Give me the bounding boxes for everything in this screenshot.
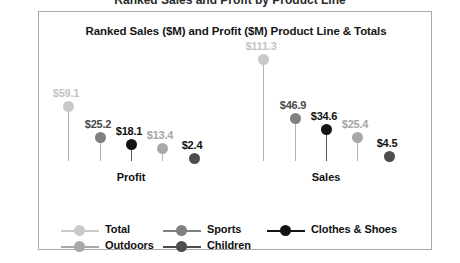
data-point-value-label: $2.4	[182, 139, 203, 151]
chart-legend: TotalSportsClothes & ShoesOutdoorsChildr…	[39, 208, 433, 252]
data-point-value-label: $4.5	[377, 137, 398, 149]
legend-marker-dot	[74, 225, 85, 236]
data-point-value-label: $25.4	[342, 118, 369, 130]
data-point[interactable]	[290, 113, 301, 124]
data-point-value-label: $34.6	[311, 110, 338, 122]
clipped-header-text: Ranked Sales and Profit by Product Line	[0, 0, 460, 7]
data-point-value-label: $46.9	[280, 99, 307, 111]
data-point-value-label: $25.2	[85, 118, 112, 130]
data-point[interactable]	[384, 151, 395, 162]
data-point-value-label: $111.3	[245, 40, 276, 52]
data-point[interactable]	[321, 124, 332, 135]
legend-marker-dot	[74, 241, 85, 252]
data-point-value-label: $18.1	[116, 125, 143, 137]
chart-frame: Ranked Sales ($M) and Profit ($M) Produc…	[38, 11, 432, 250]
data-point[interactable]	[63, 101, 74, 112]
legend-marker-dot	[176, 225, 187, 236]
legend-label: Sports	[207, 223, 241, 235]
stem-line	[68, 107, 69, 161]
data-point-value-label: $59.1	[53, 87, 80, 99]
data-point[interactable]	[352, 132, 363, 143]
data-point[interactable]	[95, 132, 106, 143]
legend-label: Children	[207, 239, 251, 251]
data-point[interactable]	[157, 143, 168, 154]
data-point[interactable]	[126, 139, 137, 150]
legend-marker-dot	[280, 225, 291, 236]
data-point[interactable]	[258, 54, 269, 65]
data-point[interactable]	[189, 153, 200, 164]
stem-line	[263, 59, 264, 161]
category-label-sales: Sales	[312, 171, 341, 183]
category-label-profit: Profit	[117, 171, 146, 183]
legend-label: Outdoors	[105, 239, 154, 251]
legend-label: Clothes & Shoes	[311, 223, 397, 235]
plot-area: $59.1$25.2$18.1$13.4$2.4Profit$111.3$46.…	[39, 12, 433, 212]
legend-label: Total	[105, 223, 130, 235]
data-point-value-label: $13.4	[147, 129, 174, 141]
stem-line	[295, 118, 296, 161]
clipped-header-region: Ranked Sales and Profit by Product Line	[0, 0, 460, 10]
legend-marker-dot	[176, 241, 187, 252]
